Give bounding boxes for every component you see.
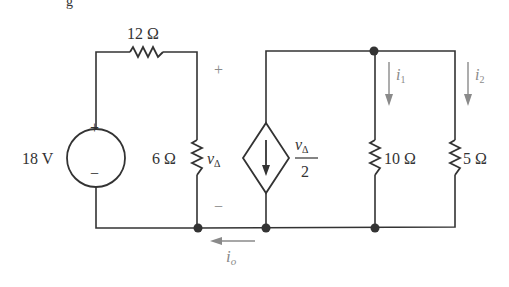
io-label: io <box>226 247 237 267</box>
source-plus-sign: + <box>90 119 99 136</box>
v-delta-label: vΔ <box>207 150 221 169</box>
dependent-current-source: vΔ 2 <box>243 123 318 193</box>
i1-arrow-icon <box>385 94 393 106</box>
voltage-source-18v: + − 18 V <box>22 119 125 187</box>
node-bottom-3 <box>371 224 380 233</box>
i2-arrow-icon <box>464 94 472 106</box>
source-minus-sign: − <box>90 165 99 182</box>
io-arrow-left-icon <box>210 237 222 245</box>
v-delta-minus-sign: − <box>214 198 223 215</box>
resistor-10-ohm: 10 Ω i1 <box>370 62 416 175</box>
resistor-5-label: 5 Ω <box>463 150 487 167</box>
title-fragment: g <box>66 0 73 9</box>
io-current-indicator: io <box>210 237 255 267</box>
dependent-denominator: 2 <box>301 163 309 180</box>
right-section-wires <box>198 51 455 228</box>
left-loop-wires <box>96 52 198 228</box>
circuit-diagram: g 12 Ω + − 18 V 6 Ω vΔ + − vΔ <box>0 0 509 287</box>
v-delta-plus-sign: + <box>214 61 223 78</box>
i2-label: i2 <box>475 66 484 85</box>
node-top-right <box>370 47 379 56</box>
node-bottom-2 <box>262 224 271 233</box>
dependent-numerator: vΔ <box>295 136 309 155</box>
resistor-6-label: 6 Ω <box>152 150 176 167</box>
i1-label: i1 <box>396 66 405 85</box>
resistor-6-ohm: 6 Ω vΔ + − <box>152 61 223 215</box>
resistor-10-label: 10 Ω <box>384 150 416 167</box>
arrow-down-icon <box>262 165 270 176</box>
resistor-12-ohm: 12 Ω <box>127 25 163 57</box>
resistor-12-label: 12 Ω <box>127 25 159 42</box>
source-label: 18 V <box>22 150 54 167</box>
node-bottom-1 <box>194 224 203 233</box>
